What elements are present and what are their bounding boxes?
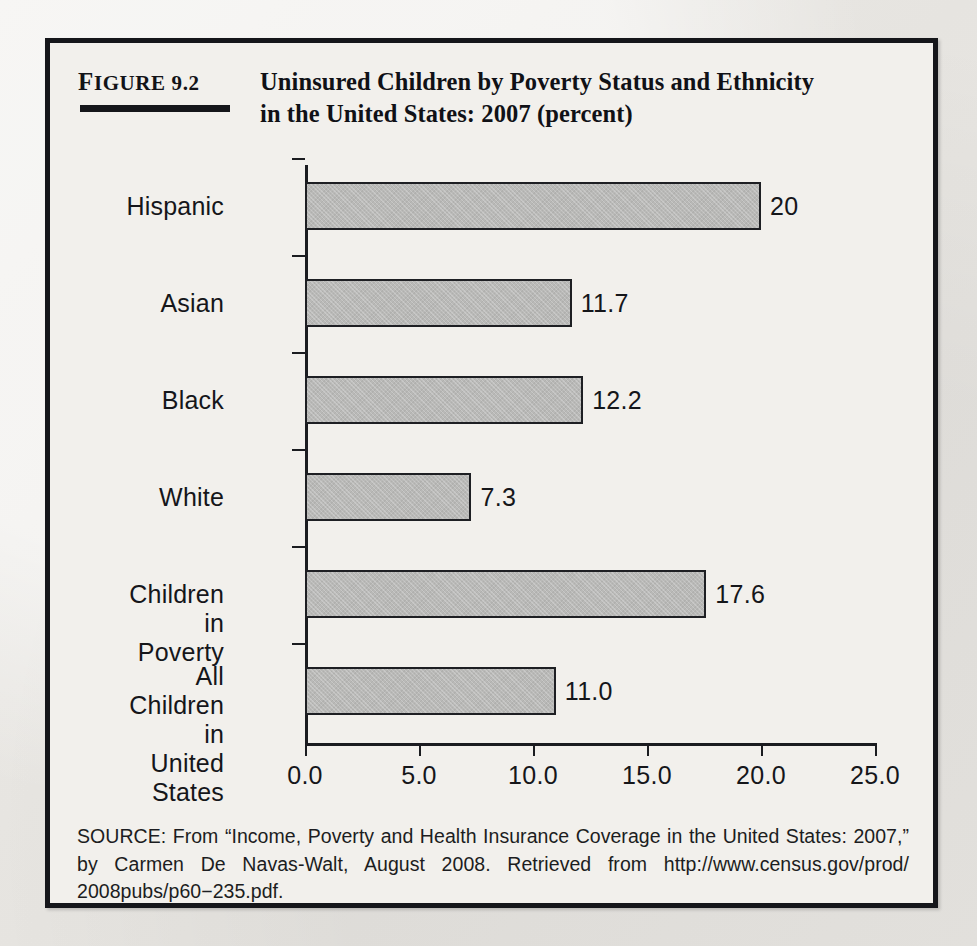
category-label: Hispanic — [127, 192, 224, 221]
source-line-2: by Carmen De Navas-Walt, August 2008. Re… — [77, 851, 909, 879]
x-axis-tick-label: 5.0 — [401, 761, 437, 790]
plot-area: 2011.712.27.317.611.0 HispanicAsianBlack… — [305, 165, 883, 743]
source-note: SOURCE: From “Income, Poverty and Health… — [77, 823, 909, 906]
figure-number: FIGURE 9.2 — [78, 68, 260, 96]
x-axis-tick — [305, 743, 307, 756]
bar-row: 11.7 — [305, 279, 883, 327]
x-axis-tick-label: 25.0 — [850, 761, 900, 790]
bar-row: 7.3 — [305, 473, 883, 521]
figure-header: FIGURE 9.2 Uninsured Children by Poverty… — [78, 65, 909, 130]
x-axis-tick-label: 20.0 — [736, 761, 786, 790]
x-axis-tick — [761, 743, 763, 756]
bar-hispanic[interactable] — [305, 182, 761, 230]
category-tick — [292, 352, 305, 354]
bar-value-label: 17.6 — [715, 580, 765, 609]
figure-number-block: FIGURE 9.2 — [78, 65, 260, 112]
x-axis-tick — [875, 743, 877, 756]
figure-word-cap: F — [78, 68, 94, 95]
category-label: White — [159, 483, 224, 512]
category-label: All Children in United States — [129, 662, 224, 807]
figure-title-line-2: in the United States: 2007 (percent) — [260, 98, 814, 130]
category-label: Asian — [160, 289, 224, 318]
source-line-1: SOURCE: From “Income, Poverty and Health… — [77, 823, 909, 851]
bar-chart: 2011.712.27.317.611.0 HispanicAsianBlack… — [50, 147, 933, 807]
bar-row: 12.2 — [305, 376, 883, 424]
x-axis-tick-label: 10.0 — [508, 761, 558, 790]
bar-asian[interactable] — [305, 279, 572, 327]
x-axis-tick-label: 15.0 — [622, 761, 672, 790]
bar-value-label: 11.0 — [565, 677, 613, 706]
bar-row: 11.0 — [305, 667, 883, 715]
figure-word-rest: IGURE — [94, 71, 166, 95]
category-label: Black — [162, 386, 224, 415]
category-tick — [292, 255, 305, 257]
bar-children-in-poverty[interactable] — [305, 570, 706, 618]
x-axis-tick — [647, 743, 649, 756]
x-axis-tick — [533, 743, 535, 756]
category-tick — [292, 449, 305, 451]
bar-all-children-in-united-states[interactable] — [305, 667, 556, 715]
figure-frame: FIGURE 9.2 Uninsured Children by Poverty… — [45, 38, 938, 908]
category-tick — [292, 546, 305, 548]
category-label: Children in Poverty — [129, 580, 224, 667]
y-axis-line — [305, 165, 308, 743]
category-tick — [292, 158, 305, 160]
bar-value-label: 11.7 — [581, 289, 629, 318]
bar-white[interactable] — [305, 473, 471, 521]
figure-title: Uninsured Children by Poverty Status and… — [260, 65, 814, 130]
x-axis-line — [305, 743, 877, 746]
bar-row: 17.6 — [305, 570, 883, 618]
x-axis-tick-label: 0.0 — [287, 761, 323, 790]
source-line-3: 2008pubs/p60−235.pdf. — [77, 878, 909, 906]
figure-rule — [80, 105, 230, 112]
category-tick — [292, 643, 305, 645]
x-axis-tick — [419, 743, 421, 756]
bar-black[interactable] — [305, 376, 583, 424]
bar-value-label: 7.3 — [480, 483, 516, 512]
bar-value-label: 12.2 — [592, 386, 642, 415]
bar-value-label: 20 — [770, 192, 798, 221]
figure-title-line-1: Uninsured Children by Poverty Status and… — [260, 66, 814, 98]
bar-row: 20 — [305, 182, 883, 230]
figure-number-value: 9.2 — [172, 71, 200, 95]
